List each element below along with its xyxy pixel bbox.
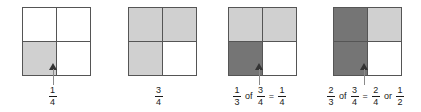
fraction-numerator: 3 [156, 86, 161, 96]
quadrant-top-left [129, 8, 163, 42]
expression-operator: = [268, 92, 275, 101]
fraction: 12 [396, 86, 404, 107]
fraction-numerator: 1 [235, 86, 240, 96]
expression-operator: or [383, 92, 393, 101]
fraction-numerator: 3 [352, 86, 357, 96]
expression-operator: of [338, 92, 348, 101]
quadrant-top-right [263, 8, 297, 42]
quadrant-top-left [229, 8, 263, 42]
fraction-panel: 14 [0, 0, 105, 112]
quadrant-top-left [334, 8, 368, 42]
fraction-panel: 34 [106, 0, 211, 112]
fraction-expression: 34 [106, 86, 211, 107]
fraction-area-model-figure: 143413of34=1423of34=24or12 [0, 0, 421, 112]
fraction-denominator: 4 [258, 97, 263, 107]
fraction-numerator: 1 [279, 86, 284, 96]
quadrant-bottom-right [57, 42, 91, 76]
fraction-denominator: 3 [329, 97, 334, 107]
area-model-square [128, 7, 197, 76]
arrow-stem [259, 69, 260, 85]
fraction-denominator: 4 [352, 97, 357, 107]
expression-operator: = [362, 92, 369, 101]
fraction-denominator: 4 [279, 97, 284, 107]
fraction-expression: 13of34=14 [207, 86, 312, 107]
expression-operator: of [244, 92, 254, 101]
fraction-numerator: 1 [397, 86, 402, 96]
fraction-numerator: 2 [329, 86, 334, 96]
quadrant-bottom-right [263, 42, 297, 76]
fraction-denominator: 4 [156, 97, 161, 107]
fraction-expression: 14 [0, 86, 105, 107]
fraction: 34 [155, 86, 163, 107]
quadrant-top-right [57, 8, 91, 42]
fraction: 14 [278, 86, 286, 107]
quadrant-bottom-right [163, 42, 197, 76]
fraction: 34 [351, 86, 359, 107]
fraction-panel: 13of34=14 [207, 0, 312, 112]
quadrant-top-right [368, 8, 402, 42]
fraction-numerator: 2 [373, 86, 378, 96]
quadrant-top-left [23, 8, 57, 42]
quadrant-top-right [163, 8, 197, 42]
fraction: 13 [233, 86, 241, 107]
fraction-numerator: 3 [258, 86, 263, 96]
fraction-expression: 23of34=24or12 [313, 86, 418, 107]
fraction-denominator: 3 [235, 97, 240, 107]
arrow-stem [364, 69, 365, 85]
fraction-panel: 23of34=24or12 [313, 0, 418, 112]
arrow-stem [53, 69, 54, 85]
quadrant-bottom-right [368, 42, 402, 76]
fraction: 34 [257, 86, 265, 107]
fraction-denominator: 2 [397, 97, 402, 107]
quadrant-bottom-left [129, 42, 163, 76]
fraction-denominator: 4 [50, 97, 55, 107]
fraction: 24 [372, 86, 380, 107]
fraction-numerator: 1 [50, 86, 55, 96]
fraction: 23 [327, 86, 335, 107]
fraction-denominator: 4 [373, 97, 378, 107]
fraction: 14 [49, 86, 57, 107]
